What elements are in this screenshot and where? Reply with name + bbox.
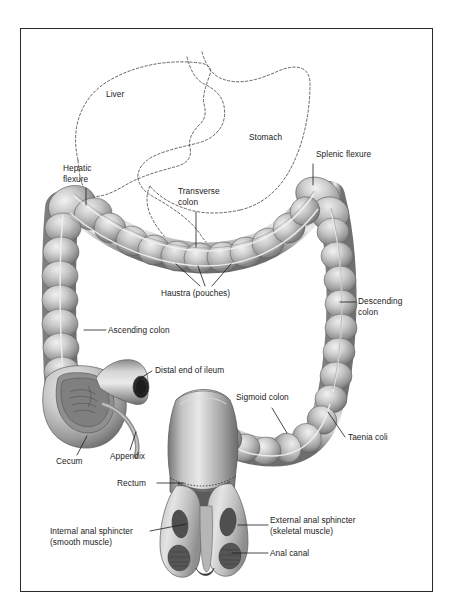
label-haustra: Haustra (pouches): [161, 288, 230, 299]
label-transverse-colon: Transverse colon: [178, 186, 220, 207]
label-external-anal-sphincter: External anal sphincter (skeletal muscle…: [270, 515, 356, 536]
label-distal-ileum: Distal end of ileum: [155, 365, 224, 376]
label-anal-canal: Anal canal: [270, 548, 309, 559]
label-descending-colon: Descending colon: [358, 296, 402, 317]
label-splenic-flexure: Splenic flexure: [316, 149, 371, 160]
label-ascending-colon: Ascending colon: [108, 325, 170, 336]
label-stomach: Stomach: [249, 132, 282, 143]
label-hepatic-flexure: Hepatic flexure: [63, 163, 91, 184]
label-appendix: Appendix: [110, 451, 145, 462]
label-internal-anal-sphincter: Internal anal sphincter (smooth muscle): [50, 526, 133, 547]
label-rectum: Rectum: [117, 478, 146, 489]
label-taenia-coli: Taenia coli: [348, 432, 388, 443]
colon-anatomy-figure: Liver Stomach Hepatic flexure Splenic fl…: [0, 0, 452, 610]
label-sigmoid-colon: Sigmoid colon: [236, 392, 289, 403]
label-liver: Liver: [106, 89, 124, 100]
label-cecum: Cecum: [56, 456, 83, 467]
